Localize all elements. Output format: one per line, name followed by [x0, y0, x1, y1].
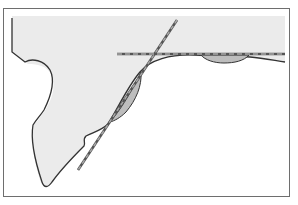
tangent-diagram	[0, 0, 298, 205]
